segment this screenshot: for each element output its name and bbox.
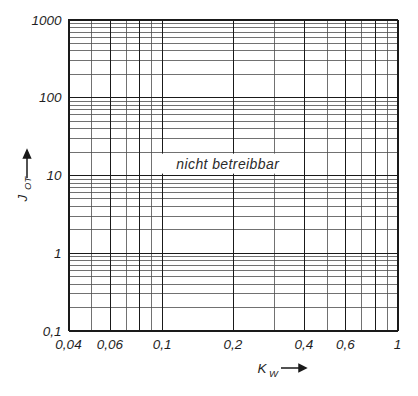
x-tick-label: 0,6 [336, 337, 355, 352]
log-log-chart: nicht betreibbar 0,040,060,10,20,40,61 0… [0, 0, 418, 396]
x-tick-label: 0,1 [153, 337, 172, 352]
x-axis-title-subscript: W [269, 368, 279, 379]
y-axis-tick-labels: 0,11101001000 [31, 13, 62, 339]
annotation-label: nicht betreibbar [176, 156, 280, 172]
y-tick-label: 1000 [31, 13, 62, 28]
y-tick-label: 0,1 [43, 324, 62, 339]
x-axis-title: K [257, 361, 267, 376]
x-tick-label: 0,06 [97, 337, 124, 352]
x-tick-label: 0,2 [224, 337, 243, 352]
y-tick-label: 100 [39, 90, 62, 105]
x-tick-label: 1 [394, 337, 402, 352]
chart-container: nicht betreibbar 0,040,060,10,20,40,61 0… [0, 0, 418, 396]
y-tick-label: 10 [46, 168, 62, 183]
annotation-layer: nicht betreibbar [158, 154, 298, 174]
x-axis-arrow-icon [281, 365, 306, 372]
x-axis-tick-labels: 0,040,060,10,20,40,61 [55, 337, 401, 352]
y-axis-title: J [15, 194, 30, 202]
y-tick-label: 1 [54, 246, 62, 261]
x-tick-label: 0,4 [294, 337, 313, 352]
x-tick-label: 0,04 [55, 337, 81, 352]
y-axis-arrow-icon [24, 150, 31, 178]
